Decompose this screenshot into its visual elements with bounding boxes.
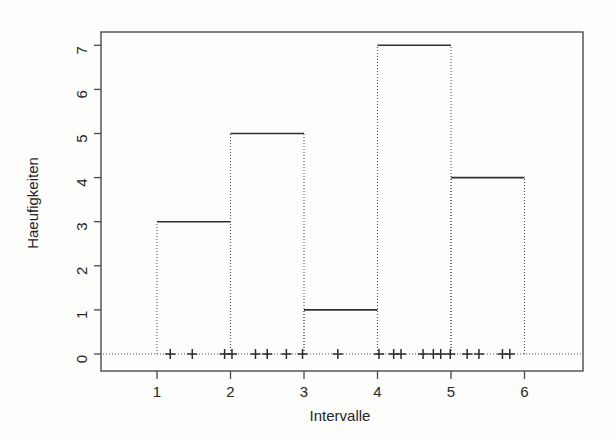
rug-mark-8 xyxy=(298,349,308,359)
rug-mark-5 xyxy=(250,349,260,359)
rug-mark-7 xyxy=(281,349,291,359)
rug-mark-1 xyxy=(165,349,175,359)
bar-1-2 xyxy=(157,222,231,354)
x-tick-label-3: 3 xyxy=(300,383,308,400)
bar-5-6 xyxy=(451,178,525,354)
histogram-bars xyxy=(157,45,525,354)
rug-mark-13 xyxy=(418,349,428,359)
bar-3-4 xyxy=(304,310,378,354)
rug-mark-17 xyxy=(462,349,472,359)
y-axis-tick-labels: 01234567 xyxy=(73,46,90,363)
rug-mark-2 xyxy=(187,349,197,359)
x-axis-ticks xyxy=(157,371,525,379)
y-tick-label-7: 7 xyxy=(73,46,90,54)
x-tick-label-5: 5 xyxy=(447,383,455,400)
plot-frame xyxy=(101,32,583,371)
plot-canvas: 01234567 123456 Intervalle Haeufigkeiten xyxy=(0,0,614,440)
y-tick-label-6: 6 xyxy=(73,90,90,98)
plot-frame-rect xyxy=(101,32,583,371)
rug-mark-10 xyxy=(374,349,384,359)
bar-4-5 xyxy=(378,45,452,354)
y-axis-title: Haeufigkeiten xyxy=(24,157,41,249)
y-tick-label-5: 5 xyxy=(73,134,90,142)
y-tick-label-3: 3 xyxy=(73,223,90,231)
x-tick-label-2: 2 xyxy=(226,383,234,400)
x-axis-title: Intervalle xyxy=(310,407,371,424)
rug-mark-18 xyxy=(474,349,484,359)
rug-mark-16 xyxy=(445,349,455,359)
x-tick-label-4: 4 xyxy=(373,383,381,400)
x-tick-label-1: 1 xyxy=(153,383,161,400)
x-tick-label-6: 6 xyxy=(520,383,528,400)
rug-mark-4 xyxy=(227,349,237,359)
rug-mark-15 xyxy=(436,349,446,359)
y-tick-label-2: 2 xyxy=(73,267,90,275)
y-axis-ticks xyxy=(94,45,101,354)
y-tick-label-0: 0 xyxy=(73,355,90,363)
rug-mark-20 xyxy=(505,349,515,359)
bar-2-3 xyxy=(231,134,305,355)
y-tick-label-4: 4 xyxy=(73,178,90,186)
rug-mark-12 xyxy=(396,349,406,359)
histogram-plot: 01234567 123456 Intervalle Haeufigkeiten xyxy=(0,0,614,440)
y-tick-label-1: 1 xyxy=(73,311,90,319)
rug-mark-6 xyxy=(262,349,272,359)
x-axis-tick-labels: 123456 xyxy=(153,383,529,400)
rug-mark-9 xyxy=(333,349,343,359)
